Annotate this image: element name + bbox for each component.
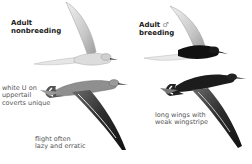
title-text: Adult [139,21,160,29]
caption-flight: flight often lazy and erratic [35,136,86,151]
caption-uppertail: white U on uppertail coverts unique [2,85,50,107]
male-symbol-icon: ♂ [163,21,169,29]
plate-title-nonbreeding: Adult nonbreeding [11,19,61,35]
title-line: nonbreeding [11,27,61,35]
caption-line: lazy and erratic [35,143,86,150]
caption-wings: long wings with weak wingstripe [155,112,208,127]
title-line: Adult ♂ [139,21,174,29]
caption-line: weak wingstripe [155,119,208,126]
title-line: Adult [11,19,61,27]
plate-title-breeding: Adult ♂ breeding [139,21,174,37]
caption-line: coverts unique [2,100,50,107]
title-line: breeding [139,29,174,37]
